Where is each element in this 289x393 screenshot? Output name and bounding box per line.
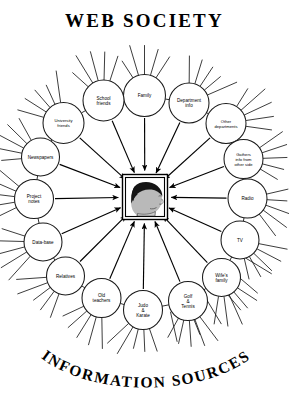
node-spoke xyxy=(168,318,178,337)
node-spoke xyxy=(0,241,24,242)
inward-arrow xyxy=(110,221,135,278)
node-spoke xyxy=(130,46,139,75)
source-node-radio[interactable]: Radio xyxy=(228,179,267,218)
ring-connector xyxy=(37,176,38,180)
node-spoke xyxy=(2,229,24,236)
node-label-data-base: Data-base xyxy=(32,240,54,245)
node-spoke xyxy=(25,99,46,112)
node-spoke xyxy=(89,317,97,345)
node-spoke xyxy=(0,167,19,187)
node-spoke xyxy=(18,283,48,294)
node-spoke xyxy=(189,321,191,347)
node-spoke xyxy=(234,292,247,308)
source-node-newspapers[interactable]: Newspapers xyxy=(22,138,60,176)
node-spoke xyxy=(122,61,133,77)
inward-arrow xyxy=(156,122,180,173)
inward-arrow xyxy=(60,164,120,187)
source-node-data-base[interactable]: Data-base xyxy=(24,223,62,261)
node-spoke xyxy=(0,147,21,153)
node-spoke xyxy=(246,126,271,130)
node-spoke xyxy=(56,71,60,102)
node-spoke xyxy=(266,205,289,215)
node-spoke xyxy=(0,183,16,191)
node-spoke xyxy=(260,132,283,148)
outer-ray xyxy=(206,298,221,324)
node-spoke xyxy=(200,67,212,86)
source-node-gathers-info[interactable]: Gathersinfo fromother side xyxy=(224,140,263,179)
source-node-old-teachers[interactable]: Oldteachers xyxy=(82,279,121,318)
node-spoke xyxy=(0,194,14,197)
node-spoke xyxy=(244,259,249,279)
ring-connector xyxy=(82,286,85,288)
node-spoke xyxy=(156,57,169,78)
ring-connector xyxy=(162,305,169,306)
node-label-radio: Radio xyxy=(241,196,254,201)
source-node-project-notes[interactable]: Projectnotes xyxy=(15,180,54,219)
source-node-university-friends[interactable]: Universityfriends xyxy=(43,103,84,144)
source-node-judo-karate[interactable]: Judo&Karate xyxy=(124,291,163,330)
ring-connector xyxy=(230,257,232,260)
node-spoke xyxy=(214,297,218,324)
node-spoke xyxy=(144,330,145,352)
inward-arrow xyxy=(169,208,221,232)
ring-connector xyxy=(81,111,85,113)
node-spoke xyxy=(179,320,184,343)
node-spoke xyxy=(261,169,278,179)
node-spoke xyxy=(0,208,16,219)
ring-connector xyxy=(120,303,124,304)
node-spoke xyxy=(224,297,228,326)
node-spoke xyxy=(263,157,287,158)
node-label-project-notes: Projectnotes xyxy=(27,194,42,204)
node-spoke xyxy=(237,89,248,106)
inward-arrow xyxy=(171,197,226,198)
poster-title-top: WEB SOCIETY xyxy=(65,10,224,31)
node-spoke xyxy=(257,249,281,261)
web-society-poster: FamilyDepartmentinfoOtherdepartmentsGath… xyxy=(0,0,289,393)
node-spoke xyxy=(151,49,159,75)
inward-arrow xyxy=(143,223,144,289)
node-spoke xyxy=(2,159,22,161)
source-node-other-departments[interactable]: Otherdepartments xyxy=(206,104,246,144)
node-spoke xyxy=(68,311,86,327)
source-node-school-friends[interactable]: Schoolfriends xyxy=(83,80,124,121)
node-spoke xyxy=(259,244,287,249)
node-label-tv: TV xyxy=(237,238,244,243)
node-label-wifes-family: Wife'sfamily xyxy=(215,273,228,283)
node-spoke xyxy=(17,277,47,279)
node-spoke xyxy=(0,202,14,206)
title-top-group: WEB SOCIETY xyxy=(65,10,224,31)
node-spoke xyxy=(1,252,26,267)
source-node-golf-tennis[interactable]: Golf&Tennis xyxy=(169,282,208,321)
inward-arrow xyxy=(80,138,125,179)
title-bottom-group: INFORMATION SOURCES xyxy=(39,346,253,390)
node-spoke xyxy=(76,56,93,83)
outer-ray xyxy=(246,258,272,274)
source-node-tv[interactable]: TV xyxy=(221,221,259,259)
node-spoke xyxy=(34,288,50,300)
node-spoke xyxy=(133,329,138,348)
inward-arrow xyxy=(170,167,224,188)
ring-connector xyxy=(38,218,39,223)
node-spoke xyxy=(262,145,286,153)
node-spoke xyxy=(90,52,98,81)
node-spoke xyxy=(104,52,105,80)
node-spoke xyxy=(18,110,44,117)
node-spoke xyxy=(263,164,284,169)
inward-arrow xyxy=(164,138,210,179)
source-node-department-info[interactable]: Departmentinfo xyxy=(169,83,209,123)
node-label-school-friends: Schoolfriends xyxy=(96,96,111,106)
node-spoke xyxy=(73,73,88,87)
node-spoke xyxy=(102,318,103,349)
diagram-canvas: FamilyDepartmentinfoOtherdepartmentsGath… xyxy=(0,0,289,393)
node-label-relatives: Relatives xyxy=(56,274,76,279)
node-spoke xyxy=(41,292,54,310)
node-spoke xyxy=(267,189,288,194)
node-label-gathers-info: Gathersinfo fromother side xyxy=(234,152,253,167)
inward-arrow xyxy=(55,197,118,198)
node-spoke xyxy=(244,102,271,115)
source-node-relatives[interactable]: Relatives xyxy=(47,257,85,295)
source-node-wifes-family[interactable]: Wife'sfamily xyxy=(203,259,241,297)
poster-title-bottom: INFORMATION SOURCES xyxy=(39,346,253,390)
source-node-family[interactable]: Family xyxy=(124,75,166,117)
node-spoke xyxy=(195,320,205,346)
